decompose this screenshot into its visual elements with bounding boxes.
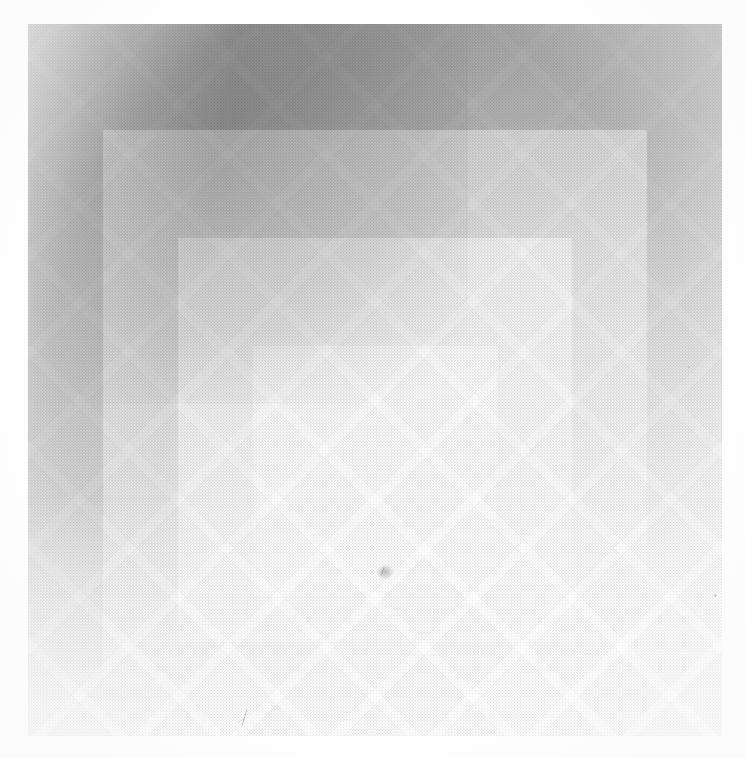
artwork-page: Four nested gray squares of decreasing s… — [0, 0, 745, 758]
artwork-plate — [28, 24, 722, 736]
square-innermost — [253, 346, 497, 596]
artwork-alt-text: Four nested gray squares of decreasing s… — [0, 0, 1, 1]
